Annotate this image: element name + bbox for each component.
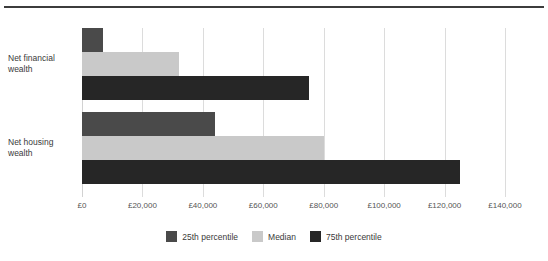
plot-area bbox=[82, 28, 505, 197]
bar-net-financial-wealth-25th-percentile bbox=[82, 28, 103, 52]
x-tick-label-140000: £140,000 bbox=[488, 201, 521, 210]
category-label-net-financial-wealth: Net financialwealth bbox=[8, 53, 78, 75]
x-tick-label-20000: £20,000 bbox=[128, 201, 157, 210]
top-divider-rule bbox=[4, 6, 544, 8]
x-tick-label-80000: £80,000 bbox=[309, 201, 338, 210]
x-tick-label-40000: £40,000 bbox=[188, 201, 217, 210]
legend-label: Median bbox=[268, 232, 296, 242]
x-tick-label-100000: £100,000 bbox=[367, 201, 400, 210]
category-label-line2: wealth bbox=[8, 64, 78, 75]
chart-legend: 25th percentileMedian75th percentile bbox=[0, 231, 548, 242]
bar-net-financial-wealth-75th-percentile bbox=[82, 76, 309, 100]
legend-item-median[interactable]: Median bbox=[252, 231, 296, 242]
legend-label: 75th percentile bbox=[326, 232, 382, 242]
legend-item-75th-percentile[interactable]: 75th percentile bbox=[310, 231, 382, 242]
x-tick-label-120000: £120,000 bbox=[428, 201, 461, 210]
x-tick-label-60000: £60,000 bbox=[249, 201, 278, 210]
bar-net-housing-wealth-25th-percentile bbox=[82, 112, 215, 136]
bar-net-financial-wealth-median bbox=[82, 52, 179, 76]
bar-chart-figure: Net financialwealthNet housingwealth £0£… bbox=[0, 0, 548, 261]
bar-net-housing-wealth-75th-percentile bbox=[82, 160, 460, 184]
x-tick-label-0: £0 bbox=[78, 201, 87, 210]
bar-net-housing-wealth-median bbox=[82, 136, 324, 160]
category-label-line1: Net financial bbox=[8, 53, 78, 64]
legend-label: 25th percentile bbox=[182, 232, 238, 242]
category-label-line2: wealth bbox=[8, 148, 78, 159]
category-label-line1: Net housing bbox=[8, 137, 78, 148]
gridline-140000 bbox=[505, 28, 506, 197]
legend-swatch-icon bbox=[166, 231, 177, 242]
legend-item-25th-percentile[interactable]: 25th percentile bbox=[166, 231, 238, 242]
category-label-net-housing-wealth: Net housingwealth bbox=[8, 137, 78, 159]
legend-swatch-icon bbox=[252, 231, 263, 242]
legend-swatch-icon bbox=[310, 231, 321, 242]
